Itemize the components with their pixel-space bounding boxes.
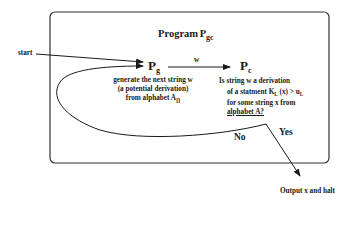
node-pc-main: P: [240, 58, 248, 73]
pg-desc-line3: from alphabet A∏: [97, 94, 209, 105]
yes-label: Yes: [279, 127, 293, 137]
node-pc-sub: c: [248, 66, 252, 75]
pg-desc-line2: (a potential derivation): [97, 85, 209, 94]
pg-desc-line3-text: from alphabet A: [126, 94, 176, 102]
node-pg-main: P: [148, 58, 156, 73]
no-label: No: [234, 132, 246, 142]
pc-desc-line4: alphabet A?: [227, 108, 303, 117]
output-label: Output x and halt: [280, 187, 335, 196]
node-pc: Pc: [240, 58, 252, 75]
pc-desc-line2-b: (x) > u: [278, 88, 300, 96]
program-title: Program Pgc: [158, 28, 214, 42]
pc-desc-line2-a: of a statment K: [227, 88, 274, 96]
pc-desc-line2-sub2: L: [300, 91, 303, 97]
pc-desc-line2: of a statment KL (x) > uL: [227, 88, 303, 99]
pc-desc-line1: Is string w a derivation: [219, 77, 290, 86]
program-title-text: Program: [158, 28, 198, 39]
pg-desc-line1: generate the next string w: [97, 76, 209, 85]
pc-description: Is string w a derivation: [219, 77, 290, 86]
pc-description-cont: of a statment KL (x) > uL for some strin…: [227, 88, 303, 117]
node-pg: Pg: [148, 58, 160, 75]
node-pg-sub: g: [156, 66, 160, 75]
start-label: start: [18, 49, 32, 58]
start-arrow: [36, 54, 143, 62]
program-title-subscript: gc: [206, 33, 214, 42]
edge-label-w: w: [194, 56, 199, 65]
pg-desc-line3-sub: ∏: [176, 97, 180, 103]
pg-description: generate the next string w (a potential …: [97, 76, 209, 105]
pc-desc-line3: for some string x from: [227, 99, 303, 108]
